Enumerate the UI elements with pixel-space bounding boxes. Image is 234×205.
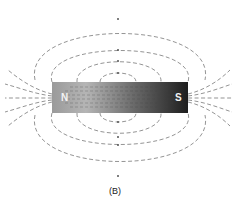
magnetic-field-diagram — [0, 0, 234, 205]
figure-caption: (B) — [109, 186, 121, 196]
bar-magnet — [52, 82, 188, 113]
north-pole-label: N — [61, 92, 68, 103]
south-pole-label: S — [175, 92, 182, 103]
